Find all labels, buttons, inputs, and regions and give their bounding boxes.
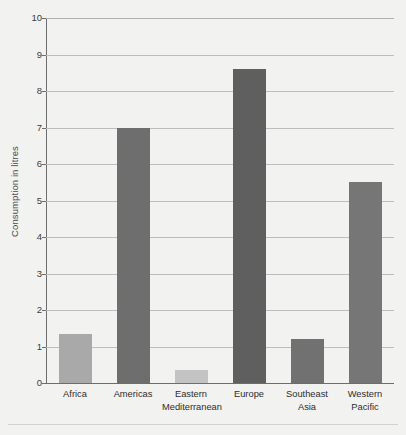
bar	[233, 69, 266, 383]
x-axis-label: Africa	[46, 388, 104, 401]
bar	[349, 182, 382, 383]
y-tick-label-9: 9	[16, 49, 42, 60]
y-tick-mark-8	[42, 91, 46, 92]
y-tick-label-1: 1	[16, 341, 42, 352]
y-tick-mark-9	[42, 55, 46, 56]
x-axis-label: Americas	[104, 388, 162, 401]
x-axis-label-line1: Western	[348, 389, 382, 399]
x-axis-category-labels: AfricaAmericasEasternMediterraneanEurope…	[46, 388, 394, 428]
bottom-divider	[8, 424, 398, 425]
y-tick-label-6: 6	[16, 158, 42, 169]
y-tick-mark-6	[42, 164, 46, 165]
y-tick-mark-2	[42, 310, 46, 311]
y-tick-label-0: 0	[16, 377, 42, 388]
x-axis-label-line2: Pacific	[336, 401, 394, 414]
y-tick-mark-1	[42, 347, 46, 348]
gridline-7	[46, 128, 394, 129]
y-tick-label-5: 5	[16, 195, 42, 206]
x-axis-label-line1: Europe	[234, 389, 264, 399]
gridline-4	[46, 237, 394, 238]
x-axis-label-line2: Mediterranean	[162, 401, 220, 414]
gridline-10	[46, 18, 394, 19]
bar	[175, 370, 208, 383]
gridline-1	[46, 347, 394, 348]
x-axis-line	[46, 383, 394, 384]
x-axis-label: SoutheastAsia	[278, 388, 336, 413]
x-axis-label: EasternMediterranean	[162, 388, 220, 413]
x-axis-label-line1: Africa	[63, 389, 87, 399]
x-axis-label-line1: Southeast	[286, 389, 328, 399]
y-tick-mark-0	[42, 383, 46, 384]
y-tick-mark-3	[42, 274, 46, 275]
bar	[59, 334, 92, 383]
gridline-3	[46, 274, 394, 275]
bar	[291, 339, 324, 383]
gridline-8	[46, 91, 394, 92]
bar	[117, 128, 150, 384]
gridline-9	[46, 55, 394, 56]
y-tick-label-10: 10	[16, 12, 42, 23]
plot-area: 012345678910	[46, 18, 394, 383]
y-tick-label-4: 4	[16, 231, 42, 242]
y-tick-label-8: 8	[16, 85, 42, 96]
y-tick-label-2: 2	[16, 304, 42, 315]
x-axis-label: Europe	[220, 388, 278, 401]
x-axis-label-line2: Asia	[278, 401, 336, 414]
y-tick-label-7: 7	[16, 122, 42, 133]
y-tick-mark-5	[42, 201, 46, 202]
y-tick-mark-10	[42, 18, 46, 19]
y-tick-mark-7	[42, 128, 46, 129]
gridline-6	[46, 164, 394, 165]
bar-chart-figure: Consumption in litres 012345678910 Afric…	[0, 0, 406, 435]
x-axis-label: WesternPacific	[336, 388, 394, 413]
gridline-2	[46, 310, 394, 311]
x-axis-label-line1: Americas	[114, 389, 153, 399]
y-tick-label-3: 3	[16, 268, 42, 279]
x-axis-label-line1: Eastern	[175, 389, 207, 399]
gridline-5	[46, 201, 394, 202]
y-tick-mark-4	[42, 237, 46, 238]
